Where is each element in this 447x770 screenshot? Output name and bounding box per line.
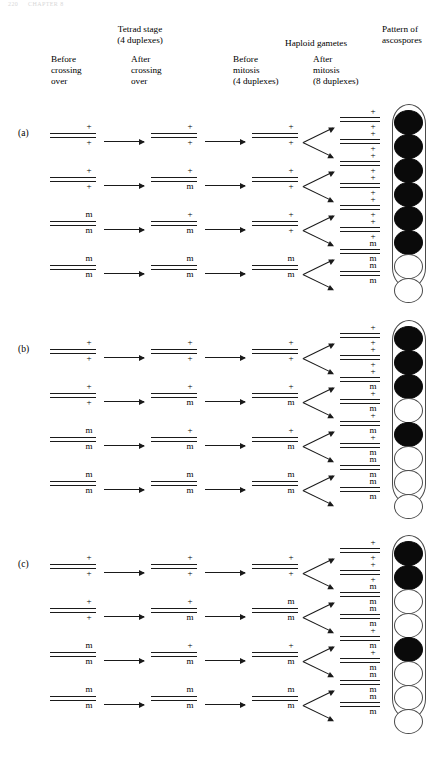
allele-label-top: m <box>367 670 379 679</box>
duplex-after-mitosis: ++ <box>340 108 380 130</box>
allele-label-bottom: m <box>285 701 297 710</box>
ascospore-filled <box>394 422 423 447</box>
ascospore-filled <box>394 206 423 231</box>
duplex-before-crossing-over: mm <box>50 467 96 497</box>
duplex-after-crossing-over: mm <box>151 467 197 497</box>
duplex-after-mitosis: ++ <box>340 324 380 346</box>
allele-label-bottom: + <box>83 613 95 622</box>
duplex-strand-top <box>340 205 380 206</box>
allele-label-top: + <box>184 597 196 606</box>
allele-label-top: m <box>367 239 379 248</box>
duplex-before-crossing-over: mm <box>50 638 96 668</box>
allele-label-bottom: m <box>83 442 95 451</box>
allele-label-bottom: + <box>184 354 196 363</box>
subheader-before-crossing-over: Before crossing over <box>51 54 111 88</box>
duplex-after-crossing-over: +m <box>151 423 197 453</box>
allele-label-top: + <box>83 382 95 391</box>
subheader-before-co-line3: over <box>51 76 111 87</box>
allele-label-top: + <box>285 338 297 347</box>
subheader-before-mitosis: Before mitosis (4 duplexes) <box>233 54 307 88</box>
mitosis-split-arrows <box>303 460 337 504</box>
duplex-strand-top <box>340 355 380 356</box>
allele-label-top: + <box>367 173 379 182</box>
allele-label-bottom: m <box>83 701 95 710</box>
allele-label-top: + <box>367 433 379 442</box>
meiosis-section-a: (a)+++++++++++++m++++++mm+m++++++mmmmmmm… <box>0 112 447 288</box>
duplex-strand-top <box>151 393 197 394</box>
subheader-after-co-line1: After <box>131 54 191 65</box>
allele-label-bottom: m <box>367 276 379 285</box>
ascospore-empty <box>394 709 423 734</box>
allele-label-top: + <box>367 345 379 354</box>
meiosis-row: ++++++++++ <box>0 328 447 372</box>
allele-label-top: m <box>367 692 379 701</box>
duplex-before-mitosis: +m <box>252 423 298 453</box>
duplex-after-mitosis: mm <box>340 671 380 693</box>
duplex-strand-top <box>340 227 380 228</box>
duplex-before-mitosis: ++ <box>252 119 298 149</box>
allele-label-bottom: m <box>367 707 379 716</box>
duplex-before-mitosis: +m <box>252 638 298 668</box>
duplex-before-crossing-over: mm <box>50 207 96 237</box>
ascospore-filled <box>394 182 423 207</box>
duplex-strand-top <box>340 702 380 703</box>
allele-label-top: m <box>83 685 95 694</box>
duplex-after-mitosis: ++ <box>340 539 380 561</box>
duplex-after-crossing-over: ++ <box>151 550 197 580</box>
ascospore-filled <box>394 230 423 255</box>
subheader-before-mitosis-line2: mitosis <box>233 65 307 76</box>
allele-label-top: + <box>367 107 379 116</box>
ascospore-filled <box>394 158 423 183</box>
allele-label-bottom: + <box>285 226 297 235</box>
mitosis-split-arrows <box>303 156 337 200</box>
allele-label-top: m <box>83 210 95 219</box>
mitosis-arrow-upper <box>303 260 333 275</box>
duplex-strand-top <box>252 265 298 266</box>
duplex-after-crossing-over: ++ <box>151 119 197 149</box>
allele-label-top: + <box>83 597 95 606</box>
duplex-after-crossing-over: +m <box>151 163 197 193</box>
duplex-strand-top <box>252 564 298 565</box>
allele-label-top: + <box>285 426 297 435</box>
crossing-over-arrow <box>104 572 144 573</box>
header-haploid-gametes: Haploid gametes <box>236 38 396 49</box>
allele-label-top: m <box>184 254 196 263</box>
duplex-strand-top <box>252 608 298 609</box>
ascospore-empty <box>394 661 423 686</box>
duplex-strand-top <box>340 183 380 184</box>
duplex-before-mitosis: ++ <box>252 335 298 365</box>
mitosis-split-arrows <box>303 675 337 719</box>
duplex-after-mitosis: mm <box>340 240 380 262</box>
mitosis-split-arrows <box>303 372 337 416</box>
mitosis-arrow-upper <box>303 128 333 143</box>
header-tetrad-stage-line2: (4 duplexes) <box>60 35 220 46</box>
column-headers: Tetrad stage (4 duplexes) Haploid gamete… <box>0 0 447 105</box>
duplex-after-mitosis: mm <box>340 456 380 478</box>
allele-label-bottom: m <box>184 613 196 622</box>
duplex-after-mitosis: +m <box>340 368 380 390</box>
mitosis-split-arrows <box>303 587 337 631</box>
subheader-before-mitosis-line3: (4 duplexes) <box>233 76 307 87</box>
allele-label-top: + <box>83 166 95 175</box>
allele-label-top: m <box>367 582 379 591</box>
allele-label-bottom: m <box>285 613 297 622</box>
duplex-after-crossing-over: ++ <box>151 335 197 365</box>
duplex-strand-top <box>340 139 380 140</box>
duplex-strand-top <box>252 349 298 350</box>
duplex-strand-top <box>252 177 298 178</box>
duplex-strand-top <box>151 437 197 438</box>
duplex-strand-top <box>151 696 197 697</box>
meiosis-row: +++mmmmmmm <box>0 587 447 631</box>
header-pattern-line1: Pattern of <box>382 24 446 35</box>
crossing-over-arrow <box>104 401 144 402</box>
duplex-strand-top <box>340 249 380 250</box>
duplex-after-mitosis: +m <box>340 434 380 456</box>
duplex-before-crossing-over: mm <box>50 423 96 453</box>
duplex-strand-top <box>340 333 380 334</box>
ascospore-filled <box>394 350 423 375</box>
meiosis-section-c: (c)+++++++++++++mmmmmmmmm+m+m+m+mmmmmmmm… <box>0 543 447 719</box>
duplex-strand-top <box>50 564 96 565</box>
allele-label-top: m <box>285 597 297 606</box>
crossing-over-arrow <box>104 229 144 230</box>
duplex-before-crossing-over: ++ <box>50 594 96 624</box>
